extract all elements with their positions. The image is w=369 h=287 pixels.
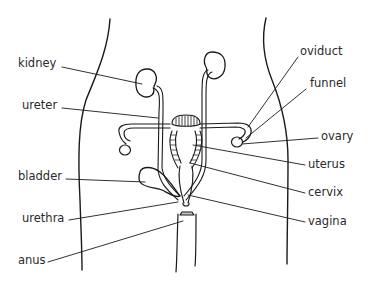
label-ovary: ovary bbox=[321, 131, 353, 143]
leader-kidney bbox=[62, 67, 142, 84]
label-oviduct: oviduct bbox=[300, 46, 342, 58]
label-funnel: funnel bbox=[310, 78, 346, 90]
label-ureter: ureter bbox=[22, 100, 57, 112]
leader-lines bbox=[48, 57, 318, 262]
label-cervix: cervix bbox=[308, 187, 343, 199]
leader-ureter bbox=[62, 108, 158, 118]
right-kidney bbox=[204, 52, 225, 79]
kidneys bbox=[136, 52, 225, 97]
leader-funnel bbox=[246, 89, 306, 138]
label-bladder: bladder bbox=[18, 171, 62, 183]
label-urethra: urethra bbox=[22, 213, 64, 225]
openings bbox=[176, 203, 196, 272]
leader-ovary bbox=[242, 138, 318, 144]
leader-urethra bbox=[69, 202, 178, 220]
label-kidney: kidney bbox=[18, 58, 56, 70]
ovaries bbox=[120, 137, 243, 155]
uterus bbox=[170, 115, 202, 168]
label-anus: anus bbox=[18, 255, 46, 267]
body-outline bbox=[79, 18, 288, 270]
leader-bladder bbox=[66, 179, 145, 182]
vagina bbox=[179, 166, 193, 203]
leader-anus bbox=[48, 221, 183, 262]
label-vagina: vagina bbox=[308, 216, 347, 228]
label-uterus: uterus bbox=[308, 159, 345, 171]
ureters bbox=[153, 70, 212, 200]
